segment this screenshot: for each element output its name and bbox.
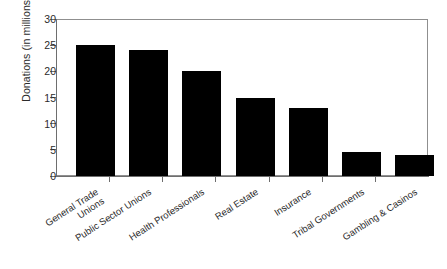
x-axis-labels: General Trade UnionsPublic Sector Unions… (0, 0, 447, 269)
bar-chart: Donations (in millions) 051015202530 Gen… (0, 0, 447, 269)
x-axis-label: Real Estate (153, 186, 260, 261)
x-axis-label: Tribal Governments (259, 186, 366, 261)
x-axis-label: Health Professionals (99, 186, 206, 261)
x-axis-label: Gambling & Casinos (312, 186, 419, 261)
x-axis-label: Insurance (206, 186, 313, 261)
